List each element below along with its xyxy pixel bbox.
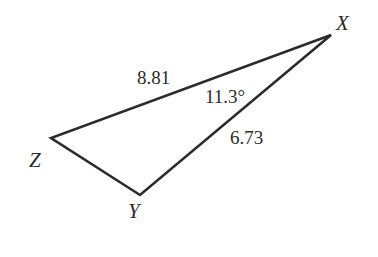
side-length-xy: 6.73 [230, 127, 263, 148]
angle-measure-x: 11.3° [205, 86, 245, 107]
triangle-diagram: X Z Y 8.81 11.3° 6.73 [0, 0, 378, 257]
vertex-label-y: Y [128, 199, 142, 223]
triangle-xyz [51, 35, 331, 195]
vertex-label-z: Z [29, 148, 41, 172]
side-length-xz: 8.81 [137, 67, 170, 88]
vertex-label-x: X [335, 11, 350, 35]
